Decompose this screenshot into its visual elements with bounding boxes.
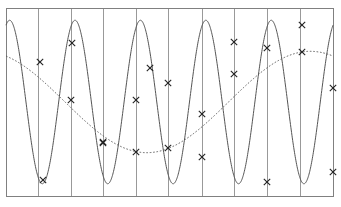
plot-background [0,0,341,207]
chart-container [0,0,341,207]
sine-wave-plot [0,0,341,207]
